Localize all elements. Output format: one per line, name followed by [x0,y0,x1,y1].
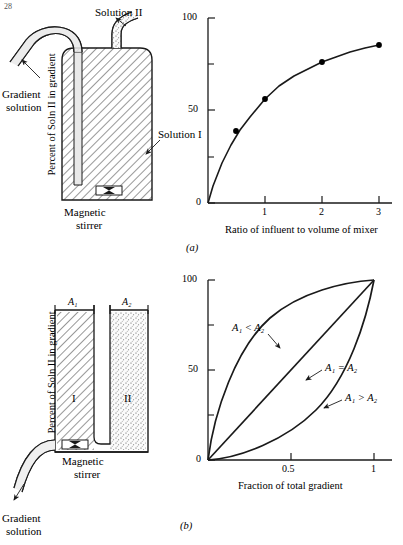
chart-a-point [233,128,239,134]
area-1-label-b: A₁ [68,296,78,307]
gradient-solution-label-a-line2: solution [6,101,41,113]
solution-i-label-a: Solution I [158,128,202,140]
chart-b-annotation-arrow-3 [324,400,342,408]
chart-b-annotation-a1-gt-a2: A₁ > A₂ [345,392,377,403]
magnetic-stirrer-label-b-line1: Magnetic [62,455,104,467]
chart-b-xtick-05: 0.5 [282,463,295,474]
chart-b-xtick-1: 1 [371,463,376,474]
chart-b [208,280,392,460]
panel-b-svg [0,262,403,545]
chart-a-curve [208,45,379,203]
mixer-vessel-a [62,48,152,200]
magnetic-stirrer-label-a-line2: stirrer [76,219,102,231]
magnetic-stirrer-bar-b [62,440,88,449]
chamber-1-label-b: I [72,392,76,404]
chart-a-ytick-50: 50 [188,103,198,114]
chart-b-ytick-0: 0 [196,453,201,464]
magnetic-stirrer-label-a-line1: Magnetic [64,206,106,218]
chart-a-xtick-3: 3 [376,206,381,217]
chart-a-ytick-0: 0 [196,196,201,207]
chart-b-ytick-50: 50 [188,363,198,374]
chart-b-annotation-arrow-1 [268,334,280,348]
chart-a [208,18,392,203]
panel-b-caption: (b) [180,520,192,531]
chamber-2-label-b: II [124,392,131,404]
chart-a-ytick-100: 100 [182,11,197,22]
gradient-solution-label-b-line2: solution [6,525,41,537]
area-2-label-b: A₂ [122,296,132,307]
gradient-solution-arrow-a [22,60,40,78]
chart-a-point [262,96,268,102]
solution-ii-label-a: Solution II [95,6,142,18]
gradient-solution-label-b-line1: Gradient [2,512,40,524]
gradient-solution-label-a-line1: Gradient [2,88,40,100]
panel-a-caption: (a) [186,242,198,253]
chart-a-point [319,59,325,65]
chart-b-ytick-100: 100 [182,273,197,284]
chart-a-ylabel: Percent of Soln II in gradient [46,20,57,210]
chart-b-ylabel: Percent of Soln II in gradient [46,278,57,468]
chart-b-annotation-arrow-2 [306,370,322,380]
chart-b-annotation-a1-eq-a2: A₁ = A₂ [325,362,357,373]
magnetic-stirrer-bar-a [96,186,122,195]
chart-a-xtick-2: 2 [319,206,324,217]
chart-b-xlabel: Fraction of total gradient [238,480,343,491]
chart-b-annotation-a1-lt-a2: A₁ < A₂ [232,322,264,333]
magnetic-stirrer-label-b-line2: stirrer [74,468,100,480]
mixer-vessel-b [55,305,148,452]
chart-a-xtick-1: 1 [262,206,267,217]
chart-a-xlabel: Ratio of influent to volume of mixer [225,224,378,235]
figure-root: 28 [0,0,403,545]
chart-a-point [376,42,382,48]
